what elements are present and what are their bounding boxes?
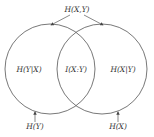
venn-diagram: H(X,Y) H(Y|X) I(X:Y) H(X|Y) H(Y) H(X) <box>0 0 154 137</box>
label-conditional-x-given-y: H(X|Y) <box>109 65 135 74</box>
label-conditional-y-given-x: H(Y|X) <box>15 65 41 74</box>
label-joint-entropy: H(X,Y) <box>63 5 89 14</box>
label-entropy-y: H(Y) <box>25 122 43 131</box>
arrow-joint-to-left <box>51 15 70 25</box>
label-mutual-information: I(X:Y) <box>64 65 87 74</box>
label-entropy-x: H(X) <box>108 122 127 131</box>
arrow-joint-to-right <box>84 15 103 25</box>
